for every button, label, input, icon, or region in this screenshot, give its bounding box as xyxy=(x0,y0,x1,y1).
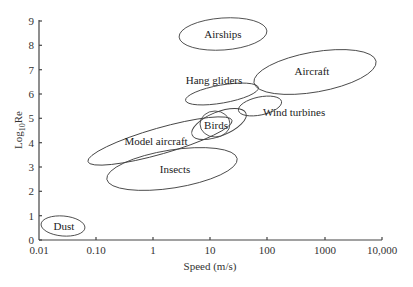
x-tick-label: 10 xyxy=(205,244,217,256)
x-tick-labels: 0.01 0.10 1 10 100 1000 10,000 xyxy=(29,244,397,256)
x-tick-label: 1 xyxy=(150,244,156,256)
y-tick-labels: 0 1 2 3 4 5 6 7 8 9 xyxy=(29,15,35,246)
label-aircraft: Aircraft xyxy=(295,65,330,77)
x-tick-label: 100 xyxy=(259,244,276,256)
y-tick-label: 8 xyxy=(29,39,35,51)
y-tick-label: 4 xyxy=(29,137,35,149)
x-tick-label: 1000 xyxy=(314,244,337,256)
y-axis-title-main: Log xyxy=(12,131,24,149)
label-dust: Dust xyxy=(54,220,75,232)
y-tick-label: 7 xyxy=(29,64,35,76)
y-tick-label: 5 xyxy=(29,112,35,124)
svg-text:Log10Re: Log10Re xyxy=(12,111,27,149)
x-tick-label: 0.10 xyxy=(86,244,106,256)
region-wind-turbines: Wind turbines xyxy=(237,93,326,120)
reynolds-number-chart: 0 1 2 3 4 5 6 7 8 9 0.01 0.10 1 10 100 1… xyxy=(0,0,413,287)
label-wind-turbines: Wind turbines xyxy=(263,106,325,118)
region-birds: Birds xyxy=(188,102,251,146)
x-tick-label: 0.01 xyxy=(29,244,48,256)
y-tick-label: 1 xyxy=(29,210,35,222)
x-axis-title: Speed (m/s) xyxy=(184,260,237,273)
y-axis-title: Log10Re xyxy=(12,111,27,149)
y-axis-title-end: Re xyxy=(12,111,24,123)
y-axis-title-sub: 10 xyxy=(18,123,27,131)
label-hang-gliders: Hang gliders xyxy=(186,74,243,86)
region-airships: Airships xyxy=(178,15,268,53)
region-aircraft: Aircraft xyxy=(250,42,379,103)
y-tick-label: 9 xyxy=(29,15,35,27)
region-dust: Dust xyxy=(40,214,86,238)
y-tick-label: 2 xyxy=(29,185,35,197)
x-tick-label: 10,000 xyxy=(367,244,398,256)
label-model-aircraft: Model aircraft xyxy=(124,135,187,147)
y-tick-label: 3 xyxy=(29,161,35,173)
label-airships: Airships xyxy=(204,28,241,40)
y-tick-label: 6 xyxy=(29,88,35,100)
label-insects: Insects xyxy=(160,163,191,175)
region-hang-gliders: Hang gliders xyxy=(184,74,260,109)
region-insects: Insects xyxy=(104,140,240,198)
